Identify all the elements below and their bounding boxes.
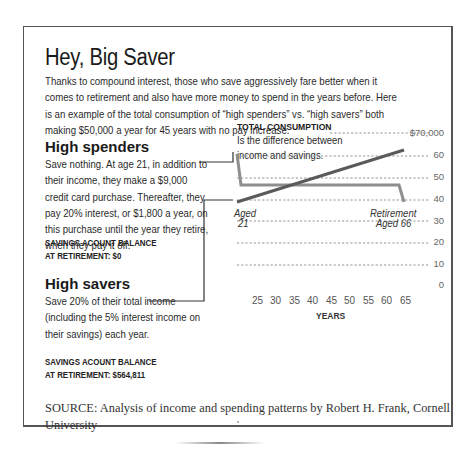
savers-leader-line <box>149 200 233 301</box>
y-tick-0: 0 <box>404 279 444 290</box>
x-tick-55: 55 <box>363 295 374 306</box>
spenders-leader-line <box>199 152 233 162</box>
x-tick-50: 50 <box>344 295 355 306</box>
gridlines <box>237 133 430 265</box>
x-tick-25: 25 <box>252 295 263 306</box>
source-note: SOURCE: Analysis of income and spending … <box>45 400 455 434</box>
x-tick-30: 30 <box>270 295 281 306</box>
savers-series-line <box>237 150 404 202</box>
y-tick-10: 10 <box>404 258 444 269</box>
page-marker-dot <box>237 421 239 423</box>
y-tick-50: 50 <box>404 171 444 182</box>
y-tick-20: 20 <box>404 236 444 247</box>
x-tick-65: 65 <box>400 295 411 306</box>
y-tick-70000: $70,000 <box>390 127 444 138</box>
x-tick-35: 35 <box>289 295 300 306</box>
x-axis-title: YEARS <box>316 311 345 321</box>
x-tick-45: 45 <box>326 295 337 306</box>
x-tick-60: 60 <box>381 295 392 306</box>
x-tick-40: 40 <box>307 295 318 306</box>
y-tick-40: 40 <box>404 193 444 204</box>
annotation-aged-66: Aged 66 <box>376 218 411 229</box>
annotation-aged-21-line2: 21 <box>238 218 249 229</box>
y-tick-60: 60 <box>404 149 444 160</box>
page-fold-shadow <box>175 442 265 444</box>
